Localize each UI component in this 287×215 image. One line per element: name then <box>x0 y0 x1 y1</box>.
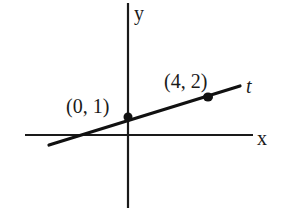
point-0-1 <box>124 113 133 122</box>
coordinate-plane-diagram: y x t (0, 1) (4, 2) <box>0 0 287 215</box>
x-axis-label: x <box>257 127 267 149</box>
point-4-2 <box>203 93 213 102</box>
point-0-1-label: (0, 1) <box>66 95 109 118</box>
y-axis-label: y <box>134 2 144 25</box>
point-4-2-label: (4, 2) <box>164 70 207 93</box>
line-t-label: t <box>246 75 252 97</box>
